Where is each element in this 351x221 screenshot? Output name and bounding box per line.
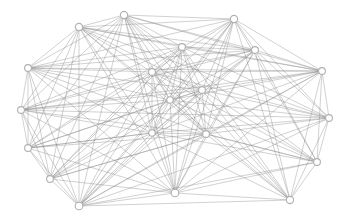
graph-node[interactable] [252, 47, 259, 54]
graph-node[interactable] [25, 145, 32, 152]
graph-node[interactable] [326, 115, 333, 122]
graph-node[interactable] [47, 176, 54, 183]
graph-node[interactable] [18, 107, 25, 114]
graph-node[interactable] [179, 44, 186, 51]
network-graph-figure [0, 0, 351, 221]
graph-node[interactable] [75, 23, 82, 30]
graph-node[interactable] [203, 131, 210, 138]
graph-node[interactable] [149, 69, 156, 76]
graph-node[interactable] [314, 159, 321, 166]
graph-node[interactable] [149, 130, 155, 136]
graph-node[interactable] [286, 196, 293, 203]
graph-node[interactable] [171, 189, 179, 197]
graph-node[interactable] [25, 65, 32, 72]
graph-node[interactable] [167, 97, 173, 103]
graph-node[interactable] [199, 87, 206, 94]
network-graph-canvas[interactable] [0, 0, 351, 221]
graph-node[interactable] [230, 15, 237, 22]
graph-node[interactable] [75, 202, 83, 210]
graph-node[interactable] [120, 11, 127, 18]
graph-node[interactable] [319, 68, 326, 75]
